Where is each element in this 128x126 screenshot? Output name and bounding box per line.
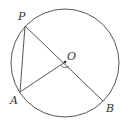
label-b: B [105, 102, 114, 115]
segment-pa [20, 26, 25, 92]
segment-ao [20, 62, 65, 92]
point-o-dot [64, 61, 67, 64]
segment-pb-diameter [25, 26, 103, 101]
angle-marker-aob [61, 65, 69, 68]
label-o: O [67, 50, 76, 63]
label-a: A [9, 94, 18, 107]
circle-diagram: P O A B [0, 0, 128, 126]
label-p: P [17, 10, 26, 23]
